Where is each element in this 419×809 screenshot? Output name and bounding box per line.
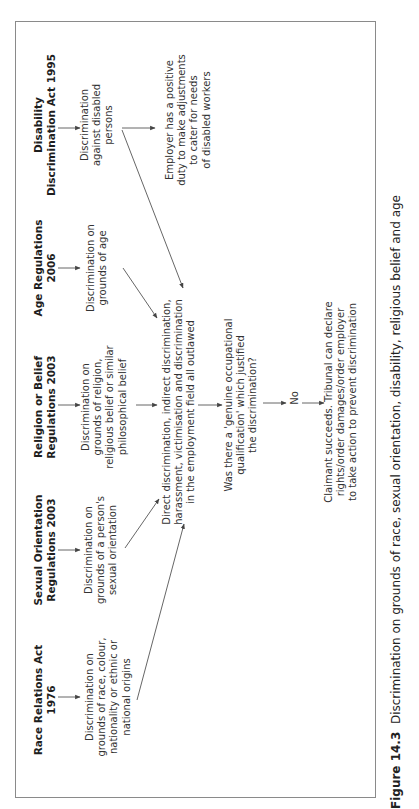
arrow-icon [122,130,183,288]
arrow-icon [137,524,184,700]
arrow-icon [123,268,157,318]
arrow-icon [125,499,159,548]
connector-arrows [0,0,419,809]
